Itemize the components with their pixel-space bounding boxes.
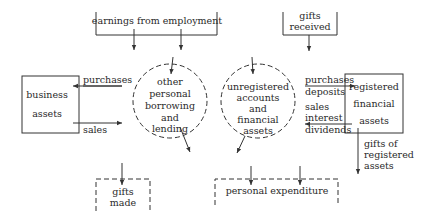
business-assets-line1: business (26, 89, 68, 100)
personal-expenditure-label: personal expenditure (226, 185, 329, 196)
unregistered-line3: and (249, 103, 267, 114)
unregistered-line5: assets (243, 125, 273, 136)
out-of-unregistered-arrow (237, 136, 245, 153)
business-sales-label: sales (83, 124, 107, 135)
gifts-made-line1: gifts (112, 186, 133, 197)
registered-line1: registered (349, 81, 399, 92)
earnings-label: earnings from employment (92, 15, 222, 26)
other-borrowing-line2: personal (149, 88, 191, 99)
other-borrowing-line4: and (161, 112, 179, 123)
earnings-from-employment-source: earnings from employment (92, 12, 222, 35)
into-unregistered-arrow (252, 57, 253, 74)
business-assets-box (22, 76, 79, 133)
registered-deposits-label: deposits (305, 86, 345, 97)
registered-sales-label: sales (305, 101, 329, 112)
registered-line3: assets (359, 115, 389, 126)
gifts-received-line2: received (289, 21, 330, 32)
flow-diagram: earnings from employment gifts received … (0, 0, 426, 222)
unregistered-line2: accounts (237, 92, 280, 103)
gifts-of-registered-line1: gifts of (364, 138, 399, 149)
gifts-received-line1: gifts (299, 10, 320, 21)
registered-dividends-label: dividends (305, 124, 351, 135)
personal-expenditure-sink: personal expenditure (215, 179, 338, 205)
unregistered-line4: financial (237, 114, 278, 125)
gifts-made-sink: gifts made (96, 179, 150, 211)
unregistered-accounts-node: unregistered accounts and financial asse… (221, 64, 295, 138)
into-other-borrowing-arrow (171, 57, 173, 74)
gifts-received-source: gifts received (283, 10, 337, 35)
registered-line2: financial (353, 98, 394, 109)
registered-purchases-label: purchases (305, 74, 354, 85)
gifts-of-registered-line2: registered (364, 149, 414, 160)
gifts-made-line2: made (110, 197, 137, 208)
other-personal-borrowing-node: other personal borrowing and lending (133, 64, 207, 138)
business-purchases-label: purchases (83, 74, 132, 85)
business-assets-line2: assets (32, 108, 62, 119)
other-borrowing-line1: other (157, 76, 183, 87)
gifts-of-registered-line3: assets (364, 160, 394, 171)
business-assets-node: business assets (22, 76, 79, 133)
other-borrowing-line3: borrowing (145, 100, 195, 111)
unregistered-line1: unregistered (227, 81, 289, 92)
registered-interest-label: interest (305, 112, 343, 123)
